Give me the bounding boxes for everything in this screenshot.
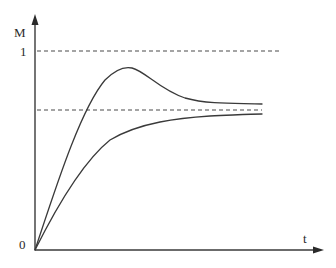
origin-label: 0 (19, 237, 26, 252)
x-axis-label: t (303, 231, 307, 246)
monotonic-response-curve (35, 114, 262, 250)
step-response-diagram: M 1 0 t (0, 0, 336, 268)
y-tick-label-one: 1 (20, 44, 27, 59)
y-axis-arrow-icon (32, 14, 39, 25)
overshoot-response-curve (35, 68, 262, 251)
x-axis-arrow-icon (313, 247, 324, 254)
y-axis-label: M (14, 25, 26, 40)
